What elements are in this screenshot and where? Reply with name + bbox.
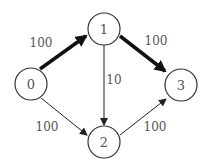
node-0: 0 (15, 68, 47, 100)
node-1: 1 (88, 13, 120, 45)
edge-label-1-3: 100 (145, 34, 168, 48)
node-3: 3 (165, 69, 197, 101)
edge-label-0-1: 100 (30, 36, 53, 50)
edge-label-0-2: 100 (36, 120, 59, 134)
node-2: 2 (88, 126, 120, 158)
node-label-0: 0 (27, 77, 35, 92)
edge-label-1-2: 10 (106, 73, 121, 87)
node-label-3: 3 (177, 78, 185, 93)
graph-diagram: 100 100 10 100 100 0 1 2 3 (0, 0, 211, 167)
node-label-1: 1 (100, 22, 108, 37)
edge-label-2-3: 100 (144, 120, 167, 134)
node-label-2: 2 (100, 135, 108, 150)
